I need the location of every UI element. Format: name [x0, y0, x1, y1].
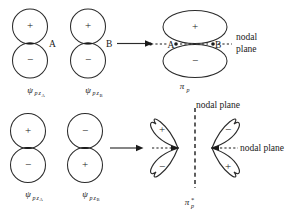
nodal-plane-text-line1: nodal [236, 32, 257, 42]
sign-minus-bottom: − [27, 53, 33, 65]
nodal-plane-endpoint-dot [149, 43, 152, 46]
sign-plus-top: + [192, 20, 198, 32]
sign-plus-left-top: + [159, 123, 165, 135]
top-row-pi-bonding-orbital: + − A B π p nodal plane [149, 11, 257, 93]
sign-plus-right-bottom: + [225, 160, 231, 172]
bottom-row-pi-antibonding-orbital: + − − + π * p nodal plane nodal plane [151, 100, 284, 209]
molecular-orbital-diagram: + − A ψ p z A + − B ψ p z B + − [0, 0, 303, 214]
orbital-a-label: ψ p z A [27, 85, 45, 98]
psi-symbol: ψ [25, 189, 31, 199]
psi-subscript-p: p [89, 195, 93, 201]
sign-plus-top: + [25, 124, 31, 136]
sign-minus-top: − [82, 124, 88, 136]
pi-superscript-star: * [191, 196, 194, 203]
sign-plus-bottom: + [82, 158, 88, 170]
arrow-head [136, 145, 144, 152]
psi-subscript-atom: B [100, 93, 103, 98]
top-row-orbital-b: + − B ψ p z B [71, 9, 113, 98]
orbital-b-label: ψ p z B [85, 85, 102, 98]
sign-minus-left-bottom: − [159, 160, 165, 172]
sign-minus-bottom: − [85, 53, 91, 65]
pi-subscript-p: p [190, 203, 194, 209]
pi-symbol: π [180, 81, 185, 91]
psi-subscript-p: p [34, 90, 38, 96]
pi-symbol: π [185, 197, 190, 207]
psi-subscript-p: p [92, 90, 96, 96]
point-label-a: A [49, 39, 56, 49]
orbital-b-label: ψ p z B [82, 189, 99, 202]
top-row-orbital-a: + − A ψ p z A [13, 9, 57, 98]
psi-subscript-atom: A [42, 93, 46, 98]
point-label-b: B [106, 39, 112, 49]
pi-antibonding-label: π * p [185, 196, 195, 209]
sign-minus-right-top: − [225, 123, 231, 135]
psi-subscript-p: p [32, 195, 36, 201]
psi-subscript-atom: A [40, 197, 44, 202]
nodal-plane-text-line2: plane [236, 44, 257, 54]
psi-symbol: ψ [27, 85, 33, 95]
nodal-plane-text-vertical: nodal plane [196, 100, 240, 110]
psi-subscript-atom: B [97, 197, 100, 202]
top-row-arrow [117, 40, 153, 47]
bottom-row-orbital-a: + − ψ p z A [11, 114, 46, 203]
point-label-a: A [168, 40, 175, 50]
sign-plus-top: + [85, 19, 91, 31]
psi-symbol: ψ [85, 85, 91, 95]
bottom-row-arrow [110, 145, 144, 152]
nucleus-dot-a [174, 42, 178, 46]
sign-plus-top: + [27, 19, 33, 31]
orbital-a-label: ψ p z A [25, 189, 43, 202]
point-label-b: B [215, 40, 221, 50]
sign-minus-bottom: − [25, 158, 31, 170]
pi-bonding-label: π p [180, 81, 190, 93]
bottom-row-orbital-b: − + ψ p z B [68, 114, 103, 203]
sign-minus-bottom: − [192, 54, 198, 66]
pi-subscript-p: p [186, 87, 190, 93]
psi-symbol: ψ [82, 189, 88, 199]
nodal-plane-text-horizontal: nodal plane [240, 143, 284, 153]
nodal-plane-annotation-top: nodal plane [236, 32, 257, 54]
